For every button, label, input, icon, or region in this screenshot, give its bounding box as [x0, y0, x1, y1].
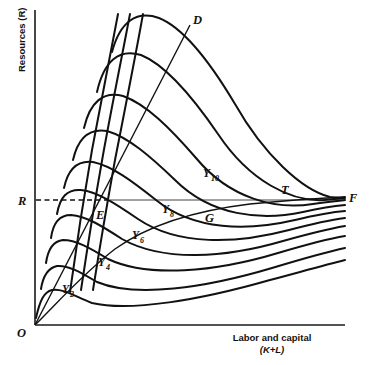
x-axis-title-line2: (K+L): [260, 344, 285, 355]
isoquant-label-y4-sub: 4: [105, 263, 110, 272]
label-g: G: [205, 211, 214, 225]
isoquant-label-y10: Y 10: [203, 167, 219, 183]
isoquant-label-y2-sub: 2: [69, 290, 74, 299]
x-axis-title-line1: Labor and capital: [233, 332, 312, 343]
isoquant-curve-y10: [112, 16, 345, 198]
isoquant-curve-y9: [97, 53, 345, 200]
isoquant-family: [36, 14, 345, 318]
isoquant-label-y6: Y 6: [132, 229, 144, 245]
isoquant-label-y6-sub: 6: [140, 236, 144, 245]
isoquant-label-y2-base: Y: [62, 283, 70, 295]
label-d: D: [192, 13, 202, 27]
isoquant-figure: D E G T F R O Y 2 Y 4 Y 6 Y 8: [0, 0, 369, 365]
label-origin: O: [17, 326, 26, 340]
expansion-ray-od: [35, 25, 190, 325]
label-e: E: [95, 208, 104, 222]
isoquant-label-y4-base: Y: [98, 256, 106, 268]
label-r-tick: R: [17, 194, 26, 208]
isoquant-curve-y8: [84, 95, 345, 206]
y-axis-title: Resources (R): [16, 8, 27, 72]
isoquant-label-y6-base: Y: [132, 229, 140, 241]
label-f: F: [348, 191, 358, 205]
isoquant-curve-y3: [46, 236, 345, 271]
isoquant-label-y10-base: Y: [203, 167, 211, 179]
isoquant-svg: D E G T F R O Y 2 Y 4 Y 6 Y 8: [0, 0, 369, 365]
isoquant-label-y8-base: Y: [162, 203, 170, 215]
isoquant-curve-lowest: [36, 260, 345, 318]
isoquant-strand-b: [81, 14, 130, 290]
isoquant-label-y8-sub: 8: [170, 210, 174, 219]
isoquant-label-y10-sub: 10: [211, 174, 219, 183]
isoquant-label-y8: Y 8: [162, 203, 174, 219]
